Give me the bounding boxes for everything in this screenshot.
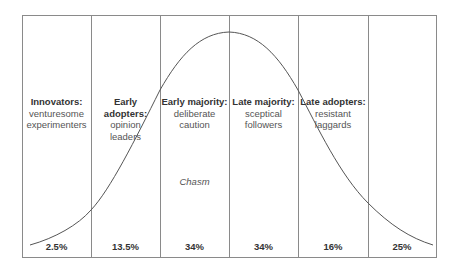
segment-innovators: Innovators: venturesome experimenters <box>22 96 91 131</box>
pct-early-majority: 34% <box>160 241 229 252</box>
segment-desc: resistant <box>298 108 368 120</box>
pct-early-adopters: 13.5% <box>91 241 160 252</box>
segment-divider <box>368 15 369 257</box>
segment-desc: venturesome <box>22 108 91 120</box>
segment-desc: deliberate <box>160 108 229 120</box>
pct-late-majority: 34% <box>229 241 298 252</box>
segment-divider <box>160 15 161 257</box>
segment-title: Late adopters: <box>298 96 368 108</box>
segment-desc: opinion <box>91 119 160 131</box>
segment-late-adopters: Late adopters: resistant laggards <box>298 96 368 131</box>
segment-title: Early majority: <box>160 96 229 108</box>
segment-desc: experimenters <box>22 119 91 131</box>
segment-desc: sceptical <box>229 108 298 120</box>
segment-desc: caution <box>160 119 229 131</box>
segment-early-adopters: Early adopters: opinion leaders <box>91 96 160 142</box>
segment-divider <box>229 15 230 257</box>
segment-late-majority: Late majority: sceptical followers <box>229 96 298 131</box>
segment-early-majority: Early majority: deliberate caution <box>160 96 229 131</box>
chasm-label: Chasm <box>160 176 229 187</box>
segment-divider <box>298 15 299 257</box>
segment-desc: leaders <box>91 131 160 143</box>
segment-title: Early adopters: <box>91 96 160 119</box>
segment-desc: laggards <box>298 119 368 131</box>
pct-innovators: 2.5% <box>22 241 91 252</box>
segment-title: Late majority: <box>229 96 298 108</box>
pct-last-segment: 25% <box>368 241 436 252</box>
segment-desc: followers <box>229 119 298 131</box>
segment-title: Innovators: <box>22 96 91 108</box>
pct-late-adopters: 16% <box>298 241 368 252</box>
